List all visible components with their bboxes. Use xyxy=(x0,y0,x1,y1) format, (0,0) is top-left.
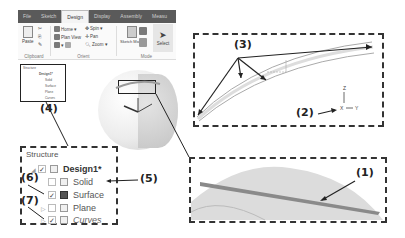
spin-button[interactable]: ✥Spin ▾ xyxy=(85,26,103,31)
callout-2: (2) xyxy=(296,106,314,119)
zoom-button[interactable]: 🔍︎Zoom ▾ xyxy=(85,42,108,47)
expand-icon[interactable]: ▷ xyxy=(40,217,46,224)
design-icon xyxy=(50,165,58,173)
plane-icon xyxy=(60,204,68,212)
home-button[interactable]: Home ▾ xyxy=(54,26,77,32)
structure-panel-thumbnail: Structure Design1* Solid Surface Plane C… xyxy=(20,64,66,102)
ribbon-tabbar: File Sketch Design Display Assembly Meas… xyxy=(18,10,176,23)
tab-file[interactable]: File xyxy=(18,10,36,23)
visibility-checkbox[interactable]: ✓ xyxy=(38,165,46,173)
visibility-checkbox[interactable]: ✓ xyxy=(48,216,56,224)
tab-display[interactable]: Display xyxy=(89,10,115,23)
pan-icon: ✛ xyxy=(85,34,89,39)
ribbon: Paste ✂ ⎘ ✎ Clipboard Home ▾ ✥Spin ▾ Pla… xyxy=(18,23,176,60)
select-button[interactable]: ➤ Select xyxy=(153,24,173,52)
clipboard-group: Paste ✂ ⎘ ✎ Clipboard xyxy=(18,23,50,60)
tree-item-design1[interactable]: ◢ ✓ Design1* xyxy=(30,163,102,175)
paste-icon xyxy=(23,26,33,38)
visibility-checkbox[interactable]: ✓ xyxy=(48,191,56,199)
callout-7: (7) xyxy=(21,194,39,207)
spin-icon: ✥ xyxy=(85,26,89,31)
surface-body-icon xyxy=(60,191,68,199)
structure-panel: Structure ◢ ✓ Design1* Solid ✓ Surface ▷… xyxy=(20,146,118,225)
tree-item-plane[interactable]: ▷ Plane xyxy=(40,202,96,214)
zoom-region-rect xyxy=(118,80,156,94)
tab-assembly[interactable]: Assembly xyxy=(115,10,147,23)
mode-group: Sketch Mode ➤ Select Mode xyxy=(117,23,176,60)
3d-viewport[interactable] xyxy=(90,62,185,157)
zoomed-curve-detail xyxy=(193,33,384,127)
callout-3: (3) xyxy=(234,38,252,51)
callout-6: (6) xyxy=(21,171,39,184)
magnifier-icon: 🔍︎ xyxy=(85,42,91,47)
orient-label: Orient xyxy=(51,54,116,59)
tree-item-solid[interactable]: Solid xyxy=(48,176,93,188)
tab-sketch[interactable]: Sketch xyxy=(36,10,61,23)
tab-measure[interactable]: Measu xyxy=(147,10,172,23)
cube-icon xyxy=(54,42,60,48)
3d-mode-icon[interactable] xyxy=(139,38,147,47)
cursor-arrow-icon: ➤ xyxy=(159,30,167,40)
tree-item-surface[interactable]: ✓ Surface xyxy=(48,189,104,201)
callout-4: (4) xyxy=(40,102,58,115)
view-cube-button[interactable]: ▾ xyxy=(54,42,71,48)
frame-icon xyxy=(65,42,71,48)
visibility-checkbox[interactable] xyxy=(48,204,56,212)
sketch-grid-icon xyxy=(127,26,137,38)
plan-view-icon xyxy=(54,34,60,40)
folder-icon xyxy=(60,216,68,224)
pan-button[interactable]: ✛Pan xyxy=(85,34,98,39)
paste-button[interactable]: Paste xyxy=(22,26,34,44)
format-painter-icon[interactable]: ✎ xyxy=(38,42,42,47)
callout-5: (5) xyxy=(140,172,158,185)
plan-view-button[interactable]: Plan View xyxy=(54,34,81,40)
cut-icon[interactable]: ✂ xyxy=(38,26,42,31)
tree-item-curves[interactable]: ▷ ✓ Curves xyxy=(40,214,102,226)
tab-design[interactable]: Design xyxy=(61,10,89,23)
section-mode-icon[interactable] xyxy=(139,27,147,35)
expand-icon[interactable]: ▷ xyxy=(40,205,46,212)
structure-title: Structure xyxy=(26,150,58,159)
mode-label: Mode xyxy=(117,54,176,59)
clipboard-label: Clipboard xyxy=(18,54,50,59)
orient-group: Home ▾ ✥Spin ▾ Plan View ✛Pan ▾ 🔍︎Zoom ▾… xyxy=(51,23,116,60)
copy-icon[interactable]: ⎘ xyxy=(38,34,42,39)
callout-1: (1) xyxy=(356,166,374,179)
visibility-checkbox[interactable] xyxy=(48,178,56,186)
home-icon xyxy=(54,26,60,32)
solid-body-icon xyxy=(60,178,68,186)
